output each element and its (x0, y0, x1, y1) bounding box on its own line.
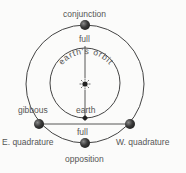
planet-e-quadrature-icon (34, 119, 44, 129)
planet-phases-diagram: earth's orbit conjunction full gibbous e… (0, 0, 186, 173)
w-quadrature-label: W. quadrature (116, 138, 169, 147)
earth-icon (82, 115, 88, 121)
planet-opposition-icon (80, 138, 90, 148)
orbit-diagram-svg: earth's orbit (0, 0, 186, 173)
opposition-label: opposition (65, 155, 104, 164)
full-bottom-label: full (77, 128, 88, 137)
earths-orbit-text: earth's orbit (56, 46, 116, 67)
full-top-label: full (79, 35, 90, 44)
sun-icon (80, 79, 91, 90)
conjunction-label: conjunction (63, 10, 106, 19)
gibbous-label: gibbous (18, 106, 48, 115)
earths-orbit-label: earth's orbit (56, 46, 116, 67)
planet-conjunction-icon (80, 20, 90, 30)
earth-label: earth (76, 106, 95, 115)
e-quadrature-label: E. quadrature (2, 138, 54, 147)
planet-w-quadrature-icon (125, 119, 135, 129)
